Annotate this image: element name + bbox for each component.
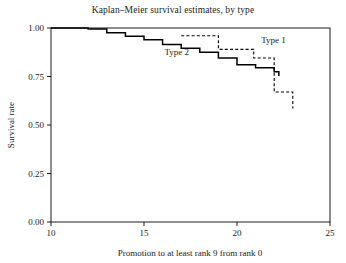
x-tick-label: 10 <box>47 228 57 238</box>
y-tick-label: 0.75 <box>28 72 44 82</box>
x-axis-ticks <box>51 222 330 226</box>
x-tick-label: 20 <box>233 228 243 238</box>
x-tick-label: 15 <box>140 228 150 238</box>
y-axis-tick-labels: 0.000.250.500.751.00 <box>28 23 44 227</box>
x-axis-tick-labels: 10152025 <box>47 228 336 238</box>
plot-frame <box>51 28 330 222</box>
plot-canvas: 10152025 0.000.250.500.751.00 Type 1 Typ… <box>0 0 346 263</box>
x-axis-label: Promotion to at least rank 9 from rank 0 <box>118 248 263 258</box>
y-tick-label: 0.50 <box>28 120 44 130</box>
y-axis-ticks <box>47 28 51 222</box>
y-tick-label: 0.25 <box>28 169 44 179</box>
y-tick-label: 0.00 <box>28 217 44 227</box>
series-annotation-type-1: Type 1 <box>261 35 286 45</box>
series-annotation-type-2: Type 2 <box>164 47 189 57</box>
y-tick-label: 1.00 <box>28 23 44 33</box>
kaplan-meier-chart: Kaplan–Meier survival estimates, by type… <box>0 0 346 263</box>
y-axis-label: Survival rate <box>6 102 16 148</box>
x-tick-label: 25 <box>326 228 336 238</box>
